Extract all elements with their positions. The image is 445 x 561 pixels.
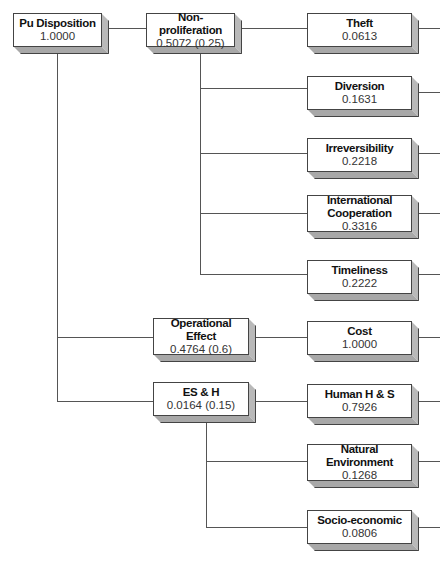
connector: [206, 461, 307, 462]
connector: [419, 213, 440, 214]
node-name: ES & H: [183, 386, 220, 399]
box-face: Non-proliferation 0.5072 (0.25): [146, 13, 235, 47]
node-value: 0.7926: [342, 401, 377, 414]
node-irreversibility[interactable]: Irreversibility 0.2218: [307, 138, 419, 179]
connector: [200, 213, 307, 214]
node-name: Human H & S: [325, 388, 395, 401]
connector: [419, 274, 440, 275]
node-value: 0.1268: [342, 469, 377, 482]
box-bottom: [13, 46, 109, 54]
node-name: Pu Disposition: [19, 17, 95, 30]
connector: [200, 46, 201, 274]
connector: [57, 401, 153, 402]
connector: [57, 337, 153, 338]
connector: [57, 46, 58, 402]
node-non-proliferation[interactable]: Non-proliferation 0.5072 (0.25): [146, 13, 242, 54]
node-name: Irreversibility: [326, 142, 394, 155]
connector: [200, 153, 307, 154]
box-face: Cost 1.0000: [307, 321, 412, 355]
node-socio-economic[interactable]: Socio-economic 0.0806: [307, 510, 419, 551]
node-es-h[interactable]: ES & H 0.0164 (0.15): [153, 382, 256, 423]
node-value: 1.0000: [342, 338, 377, 351]
connector: [419, 401, 440, 402]
box-bottom: [307, 109, 419, 117]
box-bottom: [307, 171, 419, 179]
connector: [419, 337, 440, 338]
box-face: Socio-economic 0.0806: [307, 510, 412, 544]
node-international-cooperation[interactable]: International Cooperation 0.3316: [307, 195, 419, 239]
connector: [248, 401, 307, 402]
connector: [419, 28, 440, 29]
node-value: 0.0806: [342, 527, 377, 540]
box-face: Timeliness 0.2222: [307, 260, 412, 294]
box-face: Natural Environment 0.1268: [307, 444, 412, 481]
node-operational-effect[interactable]: Operational Effect 0.4764 (0.6): [153, 318, 256, 362]
box-face: Human H & S 0.7926: [307, 384, 412, 418]
node-value: 0.2222: [342, 277, 377, 290]
connector: [419, 153, 440, 154]
box-bottom: [307, 543, 419, 551]
node-value: 0.3316: [342, 220, 377, 233]
node-name: International Cooperation: [320, 194, 400, 220]
node-name: Operational Effect: [166, 317, 236, 343]
box-face: Pu Disposition 1.0000: [13, 13, 102, 47]
box-face: Diversion 0.1631: [307, 76, 412, 110]
node-value: 0.4764 (0.6): [170, 343, 232, 356]
node-cost[interactable]: Cost 1.0000: [307, 321, 419, 362]
node-name: Theft: [346, 17, 373, 30]
box-bottom: [307, 293, 419, 301]
node-name: Non-proliferation: [147, 11, 234, 37]
connector: [248, 337, 307, 338]
node-name: Diversion: [335, 80, 385, 93]
node-name: Natural Environment: [320, 443, 400, 469]
box-bottom: [307, 46, 419, 54]
node-name: Timeliness: [331, 264, 387, 277]
connector: [200, 88, 307, 89]
node-value: 0.0613: [342, 30, 377, 43]
box-face: Theft 0.0613: [307, 13, 412, 47]
node-timeliness[interactable]: Timeliness 0.2222: [307, 260, 419, 301]
box-face: Irreversibility 0.2218: [307, 138, 412, 172]
connector: [419, 461, 440, 462]
box-face: Operational Effect 0.4764 (0.6): [153, 318, 249, 355]
node-diversion[interactable]: Diversion 0.1631: [307, 76, 419, 117]
box-face: ES & H 0.0164 (0.15): [153, 382, 249, 416]
connector: [419, 92, 440, 93]
box-bottom: [307, 354, 419, 362]
node-value: 1.0000: [40, 30, 75, 43]
node-pu-disposition[interactable]: Pu Disposition 1.0000: [13, 13, 109, 54]
node-theft[interactable]: Theft 0.0613: [307, 13, 419, 54]
connector: [206, 527, 307, 528]
box-bottom: [307, 417, 419, 425]
connector: [206, 419, 207, 527]
node-value: 0.1631: [342, 93, 377, 106]
connector: [200, 274, 307, 275]
node-name: Socio-economic: [317, 514, 402, 527]
node-name: Cost: [347, 325, 371, 338]
node-natural-environment[interactable]: Natural Environment 0.1268: [307, 444, 419, 488]
node-value: 0.5072 (0.25): [156, 37, 224, 50]
box-face: International Cooperation 0.3316: [307, 195, 412, 232]
node-value: 0.0164 (0.15): [167, 399, 235, 412]
node-human-h-s[interactable]: Human H & S 0.7926: [307, 384, 419, 425]
connector: [419, 527, 440, 528]
node-value: 0.2218: [342, 155, 377, 168]
box-bottom: [153, 415, 256, 423]
connector: [241, 28, 307, 29]
